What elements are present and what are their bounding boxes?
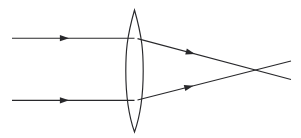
ray-diagram-figure xyxy=(0,0,301,138)
upper-refracted-ray xyxy=(138,39,292,80)
biconvex-lens-outline xyxy=(126,10,143,132)
lower-incident-ray-arrowhead xyxy=(60,97,69,103)
lower-refracted-ray xyxy=(138,61,292,100)
lower-refracted-ray-arrowhead xyxy=(184,83,194,91)
ray-diagram-canvas xyxy=(0,0,301,138)
upper-incident-ray-arrowhead xyxy=(60,35,69,41)
upper-refracted-ray-arrowhead xyxy=(185,49,195,57)
